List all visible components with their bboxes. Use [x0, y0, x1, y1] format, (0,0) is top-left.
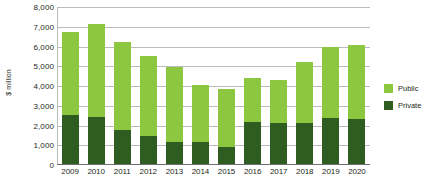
bar-segment-private[interactable]	[192, 142, 209, 165]
bar-segment-private[interactable]	[244, 122, 261, 165]
bar-segment-private[interactable]	[62, 115, 79, 165]
y-axis-tick-label: 8,000	[33, 3, 54, 12]
bar-segment-public[interactable]	[322, 47, 339, 118]
bars-layer	[57, 7, 370, 165]
bar-segment-public[interactable]	[62, 32, 79, 115]
bar-group[interactable]	[296, 7, 313, 165]
plot-area	[57, 7, 370, 165]
bar-segment-public[interactable]	[192, 85, 209, 142]
bar-group[interactable]	[114, 7, 131, 165]
y-axis-tick-label: 3,000	[33, 101, 54, 110]
bar-group[interactable]	[348, 7, 365, 165]
x-axis-tick-label: 2010	[83, 167, 109, 176]
bar-segment-public[interactable]	[114, 42, 131, 131]
bar-group[interactable]	[218, 7, 235, 165]
x-axis-tick-label: 2016	[240, 167, 266, 176]
chart-legend: PublicPrivate	[384, 84, 439, 118]
y-axis-tick-label: 7,000	[33, 22, 54, 31]
bar-segment-public[interactable]	[218, 89, 235, 147]
bar-segment-private[interactable]	[348, 119, 365, 165]
x-axis-tick-labels: 2009201020112012201320142015201620172018…	[57, 167, 370, 181]
legend-label: Public	[398, 84, 418, 93]
bar-segment-private[interactable]	[296, 123, 313, 165]
x-axis-tick-label: 2015	[214, 167, 240, 176]
bar-segment-public[interactable]	[88, 24, 105, 117]
bar-group[interactable]	[244, 7, 261, 165]
y-axis-tick-label: 0	[49, 161, 54, 170]
bar-segment-private[interactable]	[166, 142, 183, 165]
bar-segment-private[interactable]	[140, 136, 157, 165]
bar-segment-private[interactable]	[114, 130, 131, 165]
x-axis-tick-label: 2017	[266, 167, 292, 176]
bar-group[interactable]	[140, 7, 157, 165]
bar-segment-private[interactable]	[270, 123, 287, 165]
y-axis-tick-label: 1,000	[33, 141, 54, 150]
bar-segment-public[interactable]	[296, 62, 313, 122]
y-axis-tick-label: 5,000	[33, 62, 54, 71]
x-axis-tick-label: 2020	[344, 167, 370, 176]
stacked-bar-chart: $ million 8,0007,0006,0005,0004,0003,000…	[0, 0, 439, 186]
x-axis-tick-label: 2009	[57, 167, 83, 176]
legend-swatch-icon	[384, 101, 393, 110]
bar-segment-public[interactable]	[270, 80, 287, 122]
x-axis-tick-label: 2013	[161, 167, 187, 176]
x-axis-tick-label: 2018	[292, 167, 318, 176]
legend-item[interactable]: Private	[384, 101, 439, 110]
bar-segment-private[interactable]	[88, 117, 105, 165]
bar-group[interactable]	[192, 7, 209, 165]
x-axis-tick-label: 2012	[135, 167, 161, 176]
x-axis-tick-label: 2019	[318, 167, 344, 176]
y-axis-tick-labels: 8,0007,0006,0005,0004,0003,0002,0001,000…	[16, 7, 57, 165]
y-axis-title: $ million	[0, 0, 16, 165]
bar-group[interactable]	[88, 7, 105, 165]
bar-group[interactable]	[62, 7, 79, 165]
bar-segment-public[interactable]	[244, 78, 261, 121]
bar-segment-public[interactable]	[166, 67, 183, 142]
bar-segment-public[interactable]	[348, 45, 365, 119]
bar-segment-public[interactable]	[140, 56, 157, 136]
bar-group[interactable]	[322, 7, 339, 165]
x-axis-tick-label: 2011	[109, 167, 135, 176]
y-axis-tick-label: 4,000	[33, 82, 54, 91]
legend-item[interactable]: Public	[384, 84, 439, 93]
x-axis-line	[57, 164, 370, 165]
y-axis-tick-label: 6,000	[33, 42, 54, 51]
bar-segment-private[interactable]	[322, 118, 339, 165]
bar-group[interactable]	[166, 7, 183, 165]
x-axis-tick-label: 2014	[187, 167, 213, 176]
bar-segment-private[interactable]	[218, 147, 235, 165]
bar-group[interactable]	[270, 7, 287, 165]
legend-swatch-icon	[384, 84, 393, 93]
y-axis-title-label: $ million	[5, 69, 12, 96]
legend-label: Private	[398, 101, 421, 110]
y-axis-tick-label: 2,000	[33, 121, 54, 130]
